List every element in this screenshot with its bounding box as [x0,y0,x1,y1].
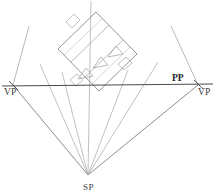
vp-right-label: VP [198,88,210,98]
sight-line-center [88,1,91,175]
caption-strip [0,190,215,196]
plan-tab-top-icon [66,14,80,28]
cone-edge-right [88,85,198,175]
picture-plane-line [2,84,213,86]
plan-tabs [66,14,132,86]
diagram-canvas [0,0,215,196]
ray-vp-left-upper [13,26,29,85]
plan-tab-bottom-icon [70,74,83,86]
sight-line-right-outer [88,62,158,175]
object-plan [58,12,137,91]
vp-left-label: VP [4,88,16,98]
perspective-diagram: VP VP PP SP [0,0,215,196]
vanishing-point-rays [13,26,198,85]
sight-lines [40,1,158,175]
plan-tab-right-icon [118,57,132,70]
plan-division-2 [85,40,123,77]
plan-marker-2-icon [93,57,108,68]
picture-plane-label: PP [172,74,184,84]
